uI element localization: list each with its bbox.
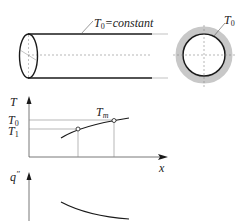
flux-plot: q″ (10, 169, 129, 221)
tube-label: T0=constant (94, 16, 154, 31)
t-axis-arrow-icon (27, 96, 32, 104)
temperature-plot: T T0 T1 Tm x (8, 95, 168, 175)
q-axis-arrow-icon (27, 172, 32, 180)
diagram-canvas: T0=constant T0 T T0 T1 Tm x q″ (0, 0, 252, 221)
point-t1 (76, 127, 80, 131)
point-t0 (112, 119, 116, 123)
cross-section-label: T0 (224, 13, 235, 28)
q-axis-label: q″ (10, 169, 20, 184)
q-curve (61, 202, 129, 219)
cross-section: T0 (173, 13, 236, 87)
t-axis-label: T (10, 95, 18, 109)
x-axis-label: x (158, 161, 165, 175)
tm-label: Tm (96, 105, 109, 120)
tube-label-leader (81, 21, 93, 34)
tm-curve (61, 118, 129, 138)
tube: T0=constant (20, 16, 169, 78)
